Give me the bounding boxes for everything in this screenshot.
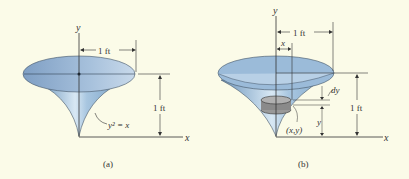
diagram-canvas: y x 1 ft 1 ft y² = x (a) y x: [0, 0, 409, 179]
y-dimension-label: y: [316, 117, 321, 127]
y-axis-label-b: y: [272, 5, 278, 16]
caption-b: (b): [298, 159, 309, 169]
dy-label: dy: [331, 85, 340, 95]
x-axis-label-a: x: [184, 132, 190, 143]
radius-label-a: 1 ft: [98, 46, 111, 56]
figure-b: y x 1 ft x 1 ft dy y (x,y) (b): [218, 5, 389, 169]
radius-label-b: 1 ft: [293, 28, 306, 38]
x-axis-label-b: x: [383, 132, 389, 143]
curve-equation-label: y² = x: [107, 120, 129, 130]
figure-a: y x 1 ft 1 ft y² = x (a): [23, 22, 190, 169]
height-label-b: 1 ft: [350, 103, 363, 113]
point-label: (x,y): [286, 125, 302, 135]
x-dimension-label: x: [280, 38, 285, 48]
y-axis-label-a: y: [75, 22, 81, 33]
height-label-a: 1 ft: [153, 103, 166, 113]
caption-a: (a): [103, 159, 113, 169]
